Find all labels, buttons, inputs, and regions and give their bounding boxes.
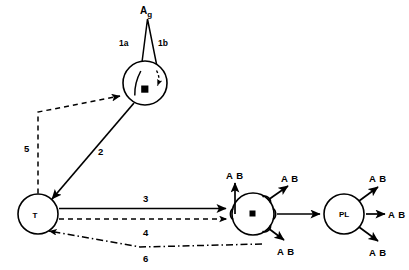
b-cell-antibody-lower-right-label: A B	[277, 246, 295, 257]
pathway-3-group: 3	[59, 193, 226, 209]
pathway-2-arrow	[52, 103, 134, 199]
macrophage-nucleus-icon	[141, 86, 148, 93]
plasma-antibody-lower-arrow	[359, 227, 378, 241]
immune-response-diagram: Ag 1a 1b M T	[0, 0, 409, 270]
b-cell-antibody-top-label: A B	[226, 170, 244, 181]
pathway-6-group: 6	[49, 231, 262, 264]
pathway-4-label: 4	[143, 227, 149, 238]
pathway-1b-label: 1b	[158, 38, 168, 48]
pathway-1a-label: 1a	[119, 38, 129, 48]
pathway-2-label: 2	[98, 146, 103, 157]
plasma-antibody-middle-label: A B	[388, 209, 406, 220]
antigen-label: Ag	[140, 5, 152, 19]
b-cell-antibody-lower-right-arrow	[268, 228, 284, 240]
plasma-antibody-lower-label: A B	[369, 247, 387, 258]
pathway-6-arrow	[49, 231, 262, 247]
t-cell-body	[18, 194, 58, 234]
macrophage-cell-body	[123, 61, 167, 105]
pathway-2-group: 2	[52, 103, 134, 199]
b-cell-antibody-upper-right-arrow	[268, 186, 288, 200]
plasma-antibody-upper-label: A B	[369, 173, 387, 184]
pathway-6-label: 6	[143, 253, 148, 264]
macrophage-group: M	[123, 61, 167, 105]
pathway-3-label: 3	[143, 193, 148, 204]
plasma-antibody-upper-arrow	[359, 187, 378, 201]
t-cell-group: T	[18, 194, 58, 234]
plasma-cell-label: PL	[339, 210, 349, 219]
t-cell-label: T	[33, 211, 38, 220]
pathway-5-arrow	[38, 96, 120, 194]
b-cell-nucleus-icon	[250, 211, 256, 217]
pathway-4-group: 4	[59, 219, 227, 238]
pathway-5-group: 5	[24, 96, 120, 194]
pathway-5-label: 5	[24, 143, 30, 154]
diagram-canvas: Ag 1a 1b M T	[0, 0, 409, 270]
b-cell-antibody-upper-right-label: A B	[281, 173, 299, 184]
plasma-cell-group: PL	[324, 194, 364, 234]
